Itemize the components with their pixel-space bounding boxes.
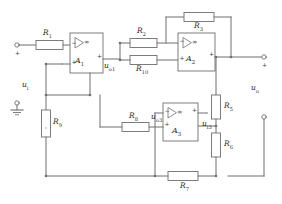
opamp-a1-plus-sign: + — [72, 59, 77, 65]
label-opamp-a2: A2 — [186, 55, 195, 65]
opamp-a1-infinity-icon: ∞ — [84, 39, 89, 46]
label-r5: R5 — [224, 102, 233, 112]
junction-dot-bottom-right — [215, 175, 218, 178]
opamp-a2-plus-sign: + — [180, 55, 185, 61]
junction-dot-r7-left — [154, 175, 157, 178]
junction-dot-r3-out — [230, 56, 233, 59]
label-r8: R8 — [129, 112, 138, 122]
circuit-figure: R1 R2 R3 R10 R9 R8 R5 R6 R7 A1 A2 A3 ∞ ∞… — [0, 0, 282, 204]
opamp-a3-output-plus-sign: + — [192, 107, 197, 113]
opamp-a2-minus-sign: − — [180, 38, 185, 44]
opamp-a3-plus-sign: + — [165, 121, 170, 127]
label-r3: R3 — [194, 22, 203, 32]
resistor-r2 — [130, 39, 157, 48]
input-terminal-plus-sign: + — [15, 50, 20, 56]
opamp-a3-minus-sign: − — [165, 108, 170, 114]
opamp-a3-infinity-icon: ∞ — [177, 109, 182, 116]
label-r7: R7 — [180, 182, 189, 192]
opamp-a1-output-plus-sign: + — [97, 53, 102, 59]
resistor-r6 — [212, 133, 221, 157]
label-u-o3: uo3 — [151, 113, 162, 123]
junction-dot-r10 — [119, 59, 122, 62]
label-opamp-a3: A3 — [172, 127, 181, 137]
resistor-r1 — [36, 41, 63, 50]
label-u-i: ui — [22, 81, 29, 91]
junction-dot-r9-mid — [45, 94, 48, 97]
output-terminal-positive — [262, 55, 266, 59]
label-r10: R10 — [136, 65, 148, 75]
junction-dot-r9-top — [45, 63, 48, 66]
output-terminal-negative — [262, 115, 266, 119]
label-u-i3: ui3 — [202, 120, 212, 130]
label-u-o: uo — [251, 84, 259, 94]
opamp-a2-infinity-icon: ∞ — [192, 39, 197, 46]
opamp-a1-minus-sign: − — [72, 40, 77, 46]
opamp-a2-output-plus-sign: + — [209, 51, 214, 57]
input-terminal-ground — [15, 101, 19, 105]
output-terminal-plus-sign: + — [262, 62, 267, 68]
resistor-r8 — [122, 123, 149, 132]
resistor-r7 — [168, 172, 198, 181]
junction-dot-a1-branch — [89, 94, 92, 97]
resistor-r9 — [42, 110, 51, 137]
label-r6: R6 — [224, 140, 233, 150]
input-terminal-positive — [15, 43, 19, 47]
junction-dot-out-rail — [215, 56, 218, 59]
resistor-r10 — [130, 56, 157, 65]
label-r2: R2 — [137, 27, 146, 37]
junction-dot-bottom-left — [45, 175, 48, 178]
junction-dot-divider-tap — [215, 125, 218, 128]
junction-dot-r2 — [119, 42, 122, 45]
label-r9: R9 — [53, 118, 62, 128]
label-u-o1: uo1 — [104, 62, 115, 72]
resistor-r5 — [212, 95, 221, 119]
label-r1: R1 — [43, 29, 52, 39]
